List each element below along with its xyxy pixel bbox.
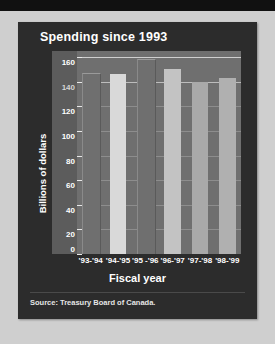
y-axis-tick-label: 40 <box>66 205 75 214</box>
y-axis-title: Billions of dollars <box>37 109 48 239</box>
bar <box>110 74 127 254</box>
gridline <box>77 82 241 83</box>
gridline <box>77 156 241 157</box>
y-axis-tick-label: 100 <box>62 131 75 140</box>
y-axis-tickmark <box>77 254 82 255</box>
bar <box>192 82 209 254</box>
y-axis-tick-label: 80 <box>66 156 75 165</box>
x-axis-tick-label: '95 -'96 <box>132 256 159 265</box>
y-axis-tickmark <box>77 205 82 206</box>
y-axis-tickmark <box>77 156 82 157</box>
chart-panel: Spending since 1993 Billions of dollars … <box>18 22 257 319</box>
bar <box>219 78 236 254</box>
x-axis-title: Fiscal year <box>18 272 257 284</box>
y-axis-tickmark <box>77 131 82 132</box>
source-note: Source: Treasury Board of Canada. <box>30 298 155 307</box>
source-divider <box>30 292 245 293</box>
page-top-rule <box>0 0 275 11</box>
bar <box>164 69 181 254</box>
gridline <box>77 229 241 230</box>
gridline <box>77 57 241 58</box>
y-axis-tickmark <box>77 180 82 181</box>
y-axis-tick-label: 20 <box>66 230 75 239</box>
y-axis-tick-label: 120 <box>62 107 75 116</box>
y-axis-tick-label: 60 <box>66 181 75 190</box>
gridline <box>77 106 241 107</box>
x-axis-tick-label: '94-'95 <box>104 256 131 265</box>
plot-area: 020406080100120140160 <box>52 51 241 254</box>
y-axis-tickmark <box>77 106 82 107</box>
chart-title: Spending since 1993 <box>40 30 167 44</box>
gridline <box>77 180 241 181</box>
x-axis-tick-label: '98-'99 <box>214 256 241 265</box>
y-axis: 020406080100120140160 <box>52 51 77 254</box>
x-axis-tick-labels: '93-'94'94-'95'95 -'96'96-'97'97-'98'98-… <box>52 256 241 269</box>
y-axis-tickmark <box>77 57 82 58</box>
x-axis-tick-label: '96-'97 <box>159 256 186 265</box>
y-axis-tickmark <box>77 229 82 230</box>
gridline <box>77 131 241 132</box>
y-axis-tick-label: 160 <box>62 58 75 67</box>
x-axis-tick-label: '97-'98 <box>186 256 213 265</box>
x-axis-tick-label: '93-'94 <box>77 256 104 265</box>
y-axis-tick-label: 140 <box>62 82 75 91</box>
bar <box>137 59 156 254</box>
page-background: Spending since 1993 Billions of dollars … <box>0 11 275 344</box>
gridline <box>77 205 241 206</box>
y-axis-tick-label: 0 <box>71 245 75 254</box>
bar <box>82 73 101 254</box>
y-axis-tickmark <box>77 82 82 83</box>
